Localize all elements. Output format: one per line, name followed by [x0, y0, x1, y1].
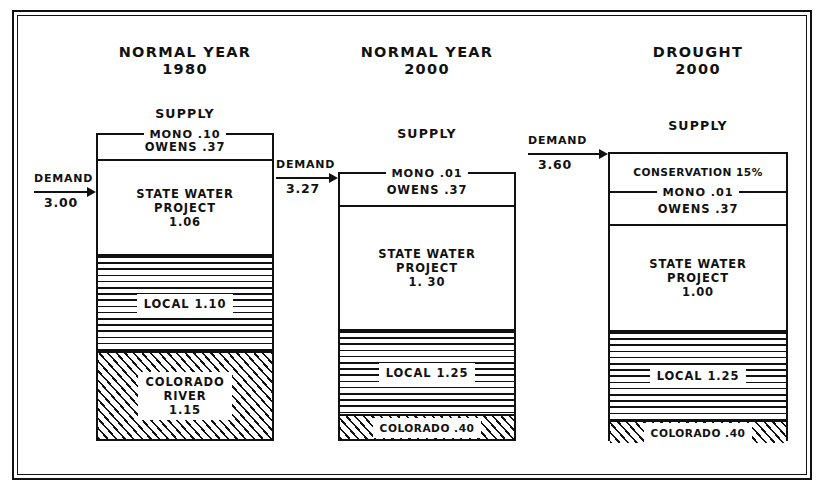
band-local: LOCAL 1.25 — [340, 329, 514, 414]
demand-value: 3.27 — [286, 181, 320, 196]
band-colorado-river: COLORADO RIVER 1.15 — [98, 351, 272, 439]
band-label: OWENS .37 — [658, 202, 739, 216]
demand-arrow-line — [528, 153, 599, 155]
band-label: COLORADO RIVER 1.15 — [140, 374, 229, 418]
mono-rule-right — [739, 191, 786, 193]
band-owens: OWENS .37 — [610, 194, 786, 224]
band-label: LOCAL 1.25 — [381, 365, 474, 381]
band-colorado-river: COLORADO .40 — [610, 420, 786, 443]
column-normal-year-1980: NORMAL YEAR 1980 SUPPLY MONO .10 OWENS .… — [96, 0, 274, 496]
column-drought-2000: DROUGHT 2000 SUPPLY CONSERVATION 15% MON… — [608, 0, 788, 496]
demand-arrow-head — [87, 187, 96, 197]
column-title-line2: 1980 — [119, 61, 252, 78]
mono-rule-right — [226, 133, 272, 135]
mono-rule-left — [610, 191, 657, 193]
band-state-water-project: STATE WATER PROJECT 1.06 — [98, 159, 272, 254]
band-label: LOCAL 1.25 — [652, 368, 745, 384]
band-label: OWENS .37 — [387, 183, 468, 197]
supply-stack: MONO .10 OWENS .37 STATE WATER PROJECT 1… — [96, 133, 274, 441]
supply-label: SUPPLY — [608, 118, 788, 133]
demand-arrow: DEMAND 3.00 — [34, 172, 96, 212]
demand-value: 3.00 — [44, 195, 78, 210]
band-colorado-river: COLORADO .40 — [340, 414, 514, 439]
band-label: STATE WATER PROJECT 1.06 — [136, 187, 234, 229]
demand-label: DEMAND — [276, 158, 335, 171]
column-title-line2: 2000 — [361, 61, 494, 78]
supply-stack: CONSERVATION 15% MONO .01 OWENS .37 STAT… — [608, 152, 788, 441]
supply-label: SUPPLY — [338, 126, 516, 141]
column-normal-year-2000: NORMAL YEAR 2000 SUPPLY MONO .01 OWENS .… — [338, 0, 516, 496]
band-label: STATE WATER PROJECT 1.00 — [649, 257, 747, 299]
demand-label: DEMAND — [528, 134, 587, 147]
band-state-water-project: STATE WATER PROJECT 1. 30 — [340, 205, 514, 329]
demand-label: DEMAND — [34, 172, 93, 185]
column-title: DROUGHT 2000 — [653, 44, 743, 78]
band-label: OWENS .37 — [145, 140, 226, 154]
supply-stack: MONO .01 OWENS .37 STATE WATER PROJECT 1… — [338, 172, 516, 441]
demand-arrow: DEMAND 3.60 — [528, 134, 608, 174]
column-title-line1: NORMAL YEAR — [119, 44, 252, 61]
demand-value: 3.60 — [538, 157, 572, 172]
band-local: LOCAL 1.10 — [98, 254, 272, 351]
demand-arrow-head — [329, 173, 338, 183]
demand-arrow-line — [276, 177, 329, 179]
mono-label: MONO .01 — [657, 186, 738, 199]
mono-label: MONO .01 — [386, 167, 467, 180]
column-title-line1: NORMAL YEAR — [361, 44, 494, 61]
demand-arrow: DEMAND 3.27 — [276, 158, 338, 198]
band-label: LOCAL 1.10 — [139, 296, 232, 312]
column-title-line1: DROUGHT — [653, 44, 743, 61]
column-title: NORMAL YEAR 2000 — [361, 44, 494, 78]
mono-label: MONO .10 — [144, 128, 225, 141]
band-label: STATE WATER PROJECT 1. 30 — [378, 247, 476, 289]
demand-arrow-head — [599, 149, 608, 159]
demand-arrow-line — [34, 191, 87, 193]
band-label: COLORADO .40 — [646, 425, 751, 441]
band-state-water-project: STATE WATER PROJECT 1.00 — [610, 224, 786, 330]
band-label: CONSERVATION 15% — [633, 165, 763, 179]
band-local: LOCAL 1.25 — [610, 330, 786, 420]
band-label: COLORADO .40 — [375, 420, 480, 436]
column-title: NORMAL YEAR 1980 — [119, 44, 252, 78]
supply-label: SUPPLY — [96, 106, 274, 121]
figure-canvas: NORMAL YEAR 1980 SUPPLY MONO .10 OWENS .… — [0, 0, 828, 496]
mono-rule-right — [468, 172, 514, 174]
mono-rule-left — [98, 133, 144, 135]
mono-rule-left — [340, 172, 386, 174]
column-title-line2: 2000 — [653, 61, 743, 78]
